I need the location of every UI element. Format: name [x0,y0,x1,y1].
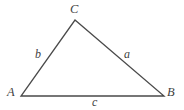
side-label-c: c [92,96,97,108]
triangle-figure: C A B b a c [0,0,184,110]
side-label-b: b [35,48,41,60]
triangle-drawing [0,0,184,110]
vertex-label-a: A [7,86,15,99]
vertex-label-c: C [70,3,78,16]
triangle-outline [21,20,164,96]
side-label-a: a [124,48,130,60]
vertex-label-b: B [167,86,175,99]
